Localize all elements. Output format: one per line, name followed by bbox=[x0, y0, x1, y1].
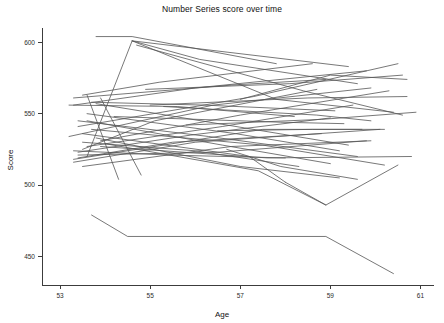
series-line bbox=[164, 107, 371, 121]
x-tick-label: 57 bbox=[237, 292, 245, 299]
y-axis-ticks: 450500550600 bbox=[24, 39, 42, 260]
x-tick-label: 53 bbox=[56, 292, 64, 299]
x-axis-title: Age bbox=[215, 310, 230, 319]
series-line bbox=[105, 144, 326, 205]
series-line bbox=[69, 105, 294, 116]
series-line bbox=[96, 37, 276, 64]
y-tick-label: 550 bbox=[24, 110, 35, 117]
y-tick-label: 600 bbox=[24, 39, 35, 46]
y-tick-label: 500 bbox=[24, 181, 35, 188]
x-tick-label: 61 bbox=[417, 292, 425, 299]
y-axis-title: Score bbox=[6, 149, 15, 170]
series-line bbox=[74, 71, 367, 105]
x-axis-ticks: 5355575961 bbox=[56, 285, 424, 299]
chart-figure: Number Series score over time 5355575961… bbox=[0, 0, 444, 323]
series-line bbox=[92, 215, 394, 274]
series-line bbox=[285, 165, 398, 205]
y-tick-label: 450 bbox=[24, 253, 35, 260]
x-tick-label: 59 bbox=[327, 292, 335, 299]
series-layer bbox=[69, 37, 416, 274]
series-line bbox=[87, 41, 348, 157]
plot-area: 5355575961 450500550600 Age Score bbox=[0, 0, 444, 323]
x-tick-label: 55 bbox=[147, 292, 155, 299]
